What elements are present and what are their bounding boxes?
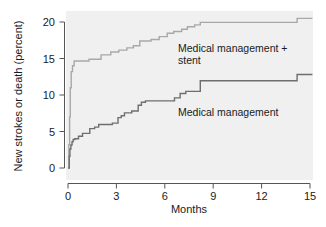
plot-panel-background	[66, 11, 313, 180]
x-axis: 03691215	[65, 184, 316, 203]
kaplan-meier-chart: 05101520 03691215 New strokes or death (…	[0, 0, 326, 227]
series-label-stent-line1: Medical management +	[178, 42, 287, 54]
series-label-stent-line2: stent	[178, 54, 201, 66]
x-axis-tick-labels: 03691215	[65, 190, 316, 202]
x-tick-label: 9	[210, 190, 216, 202]
y-tick-label: 10	[43, 89, 55, 101]
y-axis-ticks	[60, 22, 65, 168]
y-tick-label: 15	[43, 53, 55, 65]
x-tick-label: 3	[113, 190, 119, 202]
series-label-medical-management: Medical management	[178, 106, 278, 118]
x-axis-title: Months	[171, 203, 208, 215]
y-tick-label: 0	[49, 162, 55, 174]
x-axis-ticks	[68, 184, 310, 189]
x-tick-label: 15	[304, 190, 316, 202]
y-axis-title: New strokes or death (percent)	[12, 20, 24, 171]
y-axis: 05101520	[43, 16, 65, 174]
x-tick-label: 0	[65, 190, 71, 202]
x-tick-label: 6	[162, 190, 168, 202]
y-axis-tick-labels: 05101520	[43, 16, 55, 174]
chart-figure: 05101520 03691215 New strokes or death (…	[0, 0, 326, 227]
y-tick-label: 5	[49, 126, 55, 138]
x-tick-label: 12	[255, 190, 267, 202]
y-tick-label: 20	[43, 16, 55, 28]
